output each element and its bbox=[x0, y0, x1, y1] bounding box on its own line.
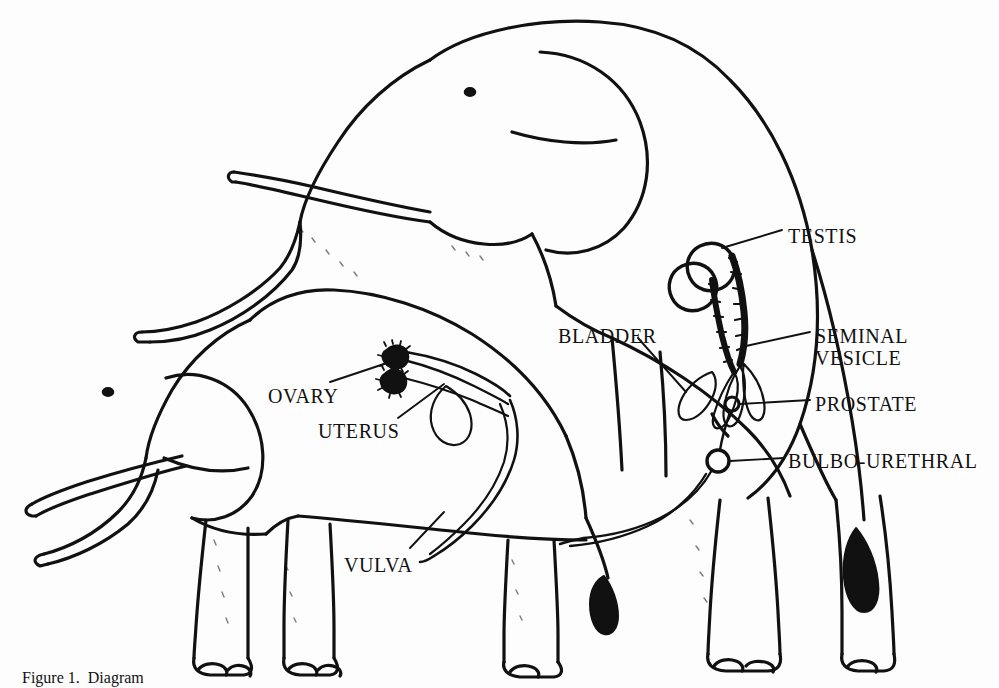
male-tusk-upper bbox=[234, 172, 430, 212]
ovary-lower bbox=[381, 370, 406, 393]
male-ear bbox=[540, 52, 647, 253]
label-bulbo-urethral: BULBO-URETHRAL bbox=[788, 450, 978, 472]
female-eye bbox=[103, 388, 114, 396]
leader-bulbo-urethral bbox=[730, 458, 784, 461]
female-trunk-bottom bbox=[48, 470, 158, 564]
figure-root: TESTIS SEMINAL VESICLE PROSTATE BULBO-UR… bbox=[0, 0, 999, 688]
female-belly bbox=[298, 516, 586, 540]
figure-caption: Figure 1. Diagram bbox=[22, 669, 144, 687]
female-tail-tuft bbox=[590, 576, 618, 634]
male-frontleg-front bbox=[612, 338, 622, 470]
female-foreleg-a-front bbox=[194, 520, 206, 658]
label-testis: TESTIS bbox=[788, 225, 857, 247]
male-trunk bbox=[142, 222, 300, 332]
male-trunk-tip bbox=[135, 332, 150, 342]
female-body-back bbox=[250, 290, 566, 436]
label-seminal-vesicle-line2: VESICLE bbox=[815, 347, 901, 369]
penis-outline bbox=[570, 474, 706, 546]
leader-seminal-vesicle bbox=[746, 332, 810, 346]
female-tusk-tip bbox=[26, 504, 36, 516]
seminal-vesicle-3 bbox=[743, 364, 765, 420]
bulbo-urethral-gland bbox=[707, 450, 729, 472]
testis-lower bbox=[669, 263, 717, 311]
male-hindleg-left-back bbox=[768, 498, 780, 654]
skin-stipple bbox=[214, 228, 707, 623]
uterus-loop bbox=[431, 386, 472, 445]
male-eye bbox=[465, 88, 476, 96]
leader-prostate bbox=[740, 400, 810, 404]
female-foreleg-b-front bbox=[284, 520, 288, 658]
male-tail bbox=[812, 250, 864, 520]
female-tusk-upper bbox=[32, 456, 182, 504]
label-vulva: VULVA bbox=[344, 554, 413, 576]
female-hindleg-front bbox=[504, 540, 508, 662]
male-tusk-lower bbox=[236, 182, 430, 222]
female-trunk-tip bbox=[35, 554, 48, 566]
male-hindleg-right-front bbox=[836, 500, 842, 654]
urethra-lower bbox=[584, 470, 712, 538]
male-jaw bbox=[430, 222, 532, 245]
female-chest bbox=[266, 516, 298, 534]
female-foreleg-b-back bbox=[330, 524, 334, 658]
male-foreleg-front bbox=[532, 234, 556, 306]
male-hindleg-left-front bbox=[708, 500, 720, 654]
male-frontleg-back bbox=[660, 352, 666, 476]
label-ovary: OVARY bbox=[268, 385, 338, 407]
male-tail-tuft bbox=[844, 528, 879, 612]
label-uterus: UTERUS bbox=[318, 420, 399, 442]
female-ear bbox=[166, 375, 263, 520]
female-tail bbox=[586, 518, 608, 578]
epididymis-b bbox=[712, 280, 734, 372]
female-hindleg-back bbox=[554, 540, 558, 662]
label-bladder: BLADDER bbox=[558, 325, 657, 347]
male-ear-fold bbox=[512, 132, 616, 143]
male-trunk-underside bbox=[150, 222, 301, 342]
oviduct-upper bbox=[406, 352, 510, 396]
label-prostate: PROSTATE bbox=[815, 393, 917, 415]
vulva bbox=[420, 556, 434, 562]
female-body-rear bbox=[566, 436, 586, 518]
leader-testis bbox=[722, 230, 782, 248]
ovary-upper bbox=[383, 346, 408, 368]
male-hindleg-right-back bbox=[880, 496, 894, 654]
label-seminal-vesicle-line1: SEMINAL bbox=[815, 325, 908, 347]
